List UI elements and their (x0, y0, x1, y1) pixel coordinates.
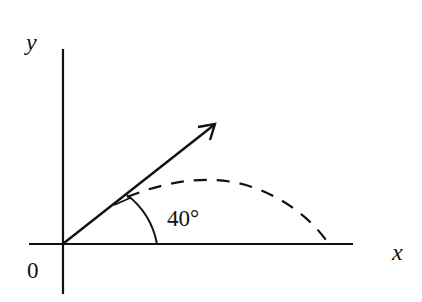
x-axis-label: x (391, 239, 403, 265)
trajectory-dashed (127, 180, 326, 240)
origin-label: 0 (27, 258, 39, 283)
angle-label: 40° (167, 206, 199, 231)
angle-arc (127, 195, 157, 244)
projectile-diagram: y x 0 40° (0, 0, 422, 302)
y-axis-label: y (24, 29, 37, 55)
